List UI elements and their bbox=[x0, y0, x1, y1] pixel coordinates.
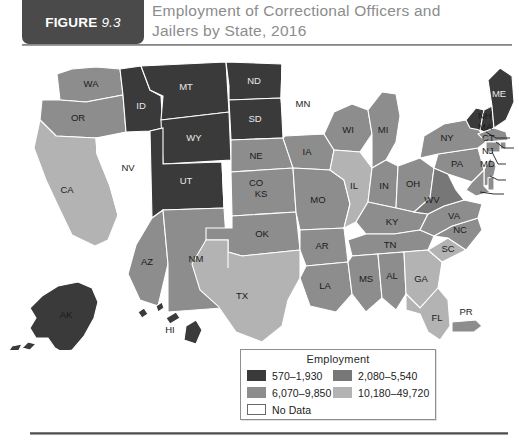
state-label-KS: KS bbox=[255, 188, 268, 199]
state-label-WY: WY bbox=[186, 132, 202, 143]
legend-swatch-bin4 bbox=[333, 387, 352, 398]
state-label-VA: VA bbox=[448, 210, 461, 221]
map-legend: Employment 570–1,930 2,080–5,540 6,070–9… bbox=[240, 349, 436, 420]
footer-divider-rule bbox=[30, 432, 508, 435]
state-label-ND: ND bbox=[247, 75, 261, 86]
legend-label-bin1: 570–1,930 bbox=[272, 370, 323, 382]
state-label-OK: OK bbox=[255, 228, 269, 239]
figure-title-line-1: Employment of Correctional Officers and bbox=[152, 1, 492, 21]
state-label-MS: MS bbox=[359, 273, 373, 284]
state-AK[interactable] bbox=[8, 282, 98, 350]
state-label-GA: GA bbox=[414, 273, 428, 284]
legend-item-bin1[interactable]: 570–1,930 bbox=[247, 368, 333, 383]
state-label-ID: ID bbox=[136, 100, 146, 111]
state-label-MD: MD bbox=[480, 158, 495, 169]
state-label-NY: NY bbox=[440, 132, 454, 143]
legend-item-bin4[interactable]: 10,180–49,720 bbox=[333, 385, 443, 400]
state-label-AK: AK bbox=[60, 309, 73, 320]
state-label-CT: CT bbox=[482, 132, 495, 143]
state-label-UT: UT bbox=[180, 175, 193, 186]
legend-swatch-bin3 bbox=[247, 387, 266, 398]
state-label-AL: AL bbox=[386, 270, 398, 281]
header-divider-rule bbox=[22, 44, 512, 46]
state-label-OH: OH bbox=[406, 178, 420, 189]
state-label-NM: NM bbox=[189, 253, 204, 264]
state-label-MI: MI bbox=[378, 124, 389, 135]
state-label-NC: NC bbox=[453, 224, 467, 235]
legend-items: 570–1,930 2,080–5,540 6,070–9,850 10,180… bbox=[241, 365, 435, 417]
figure-banner-number: 9.3 bbox=[101, 15, 120, 30]
state-label-MA: MA bbox=[478, 121, 493, 132]
us-choropleth-map: WA OR CA NV ID MT WY UT CO AZ NM ND SD N… bbox=[0, 50, 519, 350]
legend-item-nodata[interactable]: No Data bbox=[247, 402, 333, 417]
legend-label-nodata: No Data bbox=[272, 404, 311, 416]
state-AL[interactable] bbox=[378, 252, 406, 310]
state-label-WI: WI bbox=[342, 124, 354, 135]
state-label-MO: MO bbox=[310, 194, 325, 205]
state-label-FL: FL bbox=[431, 312, 442, 323]
figure-title-line-2: Jailers by State, 2016 bbox=[152, 21, 492, 41]
state-DE[interactable] bbox=[488, 176, 494, 190]
us-map-svg: WA OR CA NV ID MT WY UT CO AZ NM ND SD N… bbox=[0, 50, 519, 350]
state-label-CA: CA bbox=[60, 184, 74, 195]
legend-title: Employment bbox=[241, 353, 435, 365]
state-label-IN: IN bbox=[379, 180, 389, 191]
state-label-WV: WV bbox=[424, 194, 440, 205]
legend-swatch-bin1 bbox=[247, 370, 266, 381]
figure-banner-word: FIGURE bbox=[45, 15, 97, 30]
state-label-WA: WA bbox=[84, 78, 100, 89]
legend-swatch-nodata bbox=[247, 404, 266, 415]
state-label-OR: OR bbox=[71, 112, 85, 123]
figure-title: Employment of Correctional Officers and … bbox=[152, 1, 492, 41]
state-PR[interactable] bbox=[452, 320, 482, 332]
legend-item-bin3[interactable]: 6,070–9,850 bbox=[247, 385, 333, 400]
state-label-NV: NV bbox=[121, 162, 135, 173]
state-label-MN: MN bbox=[296, 98, 311, 109]
state-label-LA: LA bbox=[319, 280, 331, 291]
state-label-NH: NH bbox=[478, 110, 492, 121]
legend-label-bin2: 2,080–5,540 bbox=[358, 370, 418, 382]
state-label-TN: TN bbox=[384, 239, 397, 250]
state-label-IL: IL bbox=[350, 180, 358, 191]
state-label-SC: SC bbox=[441, 243, 454, 254]
state-label-SD: SD bbox=[248, 113, 261, 124]
state-label-KY: KY bbox=[386, 216, 399, 227]
state-label-MT: MT bbox=[179, 81, 193, 92]
state-label-NJ: NJ bbox=[482, 145, 494, 156]
state-label-AZ: AZ bbox=[141, 256, 153, 267]
state-label-IA: IA bbox=[303, 146, 313, 157]
legend-label-bin4: 10,180–49,720 bbox=[358, 387, 429, 399]
state-label-CO: CO bbox=[249, 177, 263, 188]
legend-label-bin3: 6,070–9,850 bbox=[272, 387, 332, 399]
state-label-ME: ME bbox=[492, 88, 506, 99]
state-label-NE: NE bbox=[249, 150, 262, 161]
legend-item-bin2[interactable]: 2,080–5,540 bbox=[333, 368, 443, 383]
state-label-TX: TX bbox=[236, 290, 249, 301]
state-label-AR: AR bbox=[315, 240, 328, 251]
legend-swatch-bin2 bbox=[333, 370, 352, 381]
state-label-PA: PA bbox=[451, 158, 464, 169]
state-label-PR: PR bbox=[459, 306, 472, 317]
figure-header: FIGURE9.3 Employment of Correctional Off… bbox=[0, 0, 519, 46]
state-label-HI: HI bbox=[165, 324, 175, 335]
figure-number-banner: FIGURE9.3 bbox=[22, 0, 144, 44]
